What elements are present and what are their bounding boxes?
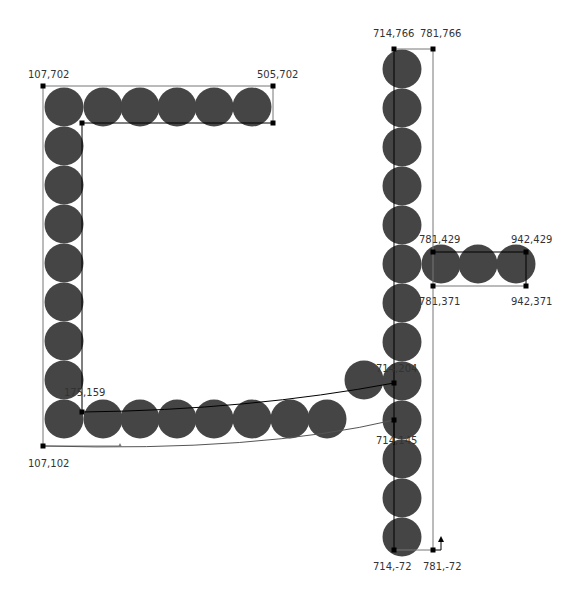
coordinate-label-bl-bottom: 107,102 (28, 458, 69, 469)
coordinate-label-tr-top: 505,702 (257, 69, 298, 80)
resize-handle[interactable] (431, 47, 436, 52)
right-column-circle[interactable] (383, 167, 422, 206)
top-row-circle[interactable] (233, 88, 272, 127)
left-column-circle[interactable] (45, 166, 84, 205)
diagram-canvas: 107,702505,702714,766781,766781,429942,4… (0, 0, 570, 596)
coordinate-label-col-tl: 714,766 (373, 28, 414, 39)
resize-handle[interactable] (392, 548, 397, 553)
arm-row-circle[interactable] (422, 245, 461, 284)
coordinate-label-arm-tr: 942,429 (511, 234, 552, 245)
right-column-circle[interactable] (383, 323, 422, 362)
bottom-row-circle[interactable] (84, 400, 123, 439)
bottom-row-circle[interactable] (121, 400, 160, 439)
resize-handle[interactable] (41, 444, 46, 449)
right-column-circle[interactable] (383, 284, 422, 323)
resize-handle[interactable] (271, 84, 276, 89)
coordinate-label-arc-bottom: 714,145 (376, 435, 417, 446)
coordinate-label-arm-bl: 781,371 (419, 296, 460, 307)
resize-handle[interactable] (392, 47, 397, 52)
inner-frame-line (82, 123, 273, 412)
right-column-circle[interactable] (383, 245, 422, 284)
right-column-circle[interactable] (383, 128, 422, 167)
arm-row-circle[interactable] (497, 245, 536, 284)
resize-handle[interactable] (524, 284, 529, 289)
right-column-circle[interactable] (383, 479, 422, 518)
top-row-circle[interactable] (84, 88, 123, 127)
midpoint-marker-icon (118, 443, 122, 447)
resize-handle[interactable] (392, 381, 397, 386)
left-column-circle[interactable] (45, 127, 84, 166)
resize-handle[interactable] (80, 121, 85, 126)
circle-layer (45, 50, 536, 557)
left-column-circle[interactable] (45, 322, 84, 361)
resize-handle[interactable] (271, 121, 276, 126)
coordinate-label-col-bl: 714,-72 (373, 561, 412, 572)
right-column-circle[interactable] (383, 206, 422, 245)
coordinate-label-inner-corner: 175,159 (64, 387, 105, 398)
resize-handle[interactable] (431, 250, 436, 255)
resize-handle[interactable] (80, 410, 85, 415)
top-row-circle[interactable] (195, 88, 234, 127)
right-column-circle[interactable] (383, 401, 422, 440)
resize-handle[interactable] (431, 548, 436, 553)
left-column-circle[interactable] (45, 244, 84, 283)
resize-handle[interactable] (392, 418, 397, 423)
bottom-row-circle[interactable] (233, 400, 272, 439)
left-column-circle[interactable] (45, 283, 84, 322)
coordinate-label-arc-top: 714,204 (376, 363, 417, 374)
bottom-row-circle[interactable] (158, 400, 197, 439)
top-row-circle[interactable] (158, 88, 197, 127)
left-column-circle[interactable] (45, 205, 84, 244)
right-column-circle[interactable] (383, 89, 422, 128)
arrow-up-icon (438, 536, 444, 542)
right-column-circle[interactable] (383, 50, 422, 89)
coordinate-label-arm-br: 942,371 (511, 296, 552, 307)
right-column-circle[interactable] (383, 518, 422, 557)
coordinate-label-col-tr: 781,766 (420, 28, 461, 39)
top-row-circle[interactable] (121, 88, 160, 127)
coordinate-label-tl-top: 107,702 (28, 69, 69, 80)
arm-row-circle[interactable] (459, 245, 498, 284)
coordinate-label-arm-tl: 781,429 (419, 234, 460, 245)
top-row-circle[interactable] (45, 88, 84, 127)
resize-handle[interactable] (431, 284, 436, 289)
bottom-row-circle[interactable] (271, 400, 310, 439)
left-column-circle[interactable] (45, 400, 84, 439)
coordinate-label-col-br: 781,-72 (423, 561, 462, 572)
resize-handle[interactable] (524, 250, 529, 255)
resize-handle[interactable] (41, 84, 46, 89)
